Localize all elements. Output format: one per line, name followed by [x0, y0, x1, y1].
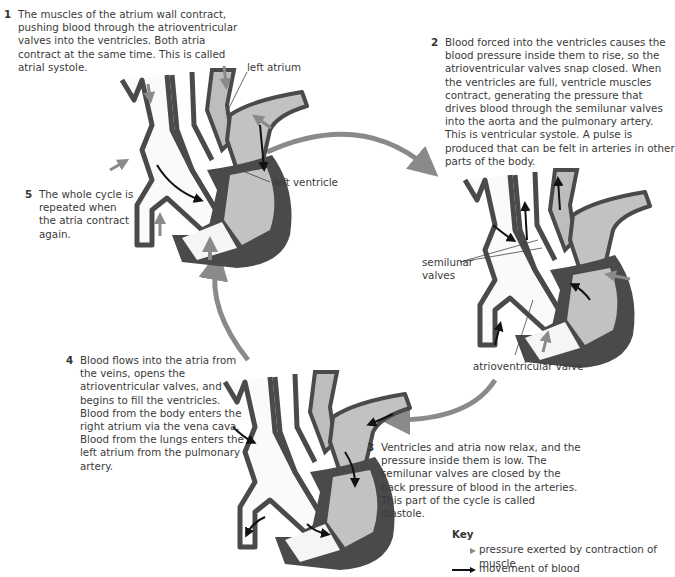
cycle-arrow-4-to-1 — [215, 265, 248, 360]
legend-item-blood: movement of blood — [452, 561, 675, 577]
legend-title: Key — [452, 528, 675, 540]
label-semilunar-valves: semilunar valves — [422, 256, 473, 282]
legend: Key pressure exerted by contraction of m… — [452, 528, 675, 577]
step-number: 1 — [4, 8, 11, 21]
step-number: 3 — [367, 441, 374, 454]
cycle-arrow-2-to-3 — [395, 380, 495, 420]
step-2-description: 2 Blood forced into the ventricles cause… — [431, 36, 675, 168]
label-atrioventricular-valve: atrioventricular valve — [473, 360, 583, 373]
step-number: 4 — [66, 354, 73, 367]
heart-illustration-step-2 — [465, 170, 650, 368]
step-number: 2 — [431, 36, 438, 49]
step-number: 5 — [25, 188, 32, 201]
black-arrow-icon — [452, 567, 476, 573]
step-1-description: 1 The muscles of the atrium wall contrac… — [4, 8, 244, 74]
grey-arrow-icon — [452, 548, 476, 554]
legend-item-pressure: pressure exerted by contraction of muscl… — [452, 542, 675, 561]
cycle-arrow-1-to-2 — [267, 134, 427, 167]
label-left-atrium: left atrium — [247, 61, 301, 74]
label-left-ventricle: left ventricle — [273, 176, 338, 189]
heart-illustration-step-1 — [122, 70, 307, 268]
step-5-description: 5 The whole cycle is repeated when the a… — [25, 188, 135, 241]
step-4-description: 4 Blood flows into the atria from the ve… — [66, 354, 246, 473]
step-3-description: 3 Ventricles and atria now relax, and th… — [367, 441, 582, 520]
